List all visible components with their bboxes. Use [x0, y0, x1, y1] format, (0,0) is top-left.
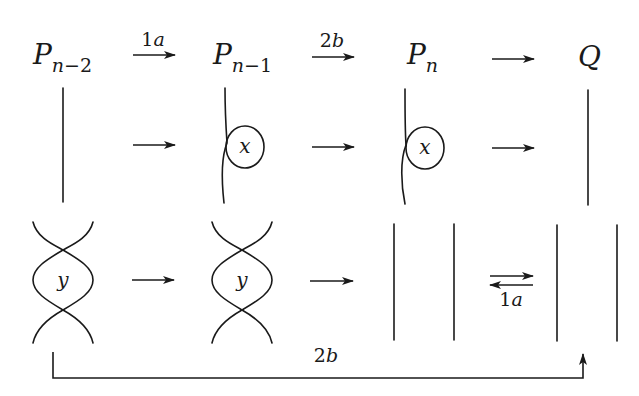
- loop-label-x: x: [419, 135, 430, 159]
- bottom-arrow-label-2b: 2b: [314, 344, 338, 366]
- commutative-diagram: Pn−2 Pn−1 Pn Q 1a 2b x x y y: [0, 0, 639, 396]
- node-q: Q: [578, 40, 601, 73]
- node-p-n-minus-2: Pn−2: [32, 38, 92, 76]
- arrow-label-1a: 1a: [141, 28, 164, 50]
- loop-label-x: x: [239, 134, 250, 158]
- node-p-n: Pn: [406, 38, 438, 76]
- arrow-label-2b: 2b: [320, 29, 344, 51]
- lens-label-y: y: [235, 268, 248, 292]
- diagram-svg: Pn−2 Pn−1 Pn Q 1a 2b x x y y: [0, 0, 639, 396]
- lens-label-y: y: [56, 268, 69, 292]
- node-p-n-minus-1: Pn−1: [212, 38, 272, 76]
- equivalence-label-1a: 1a: [499, 288, 522, 310]
